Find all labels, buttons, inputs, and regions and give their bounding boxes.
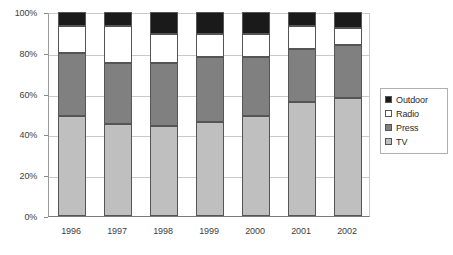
- bar-segment-radio[interactable]: [334, 28, 362, 44]
- bar-segment-tv[interactable]: [150, 126, 178, 216]
- plot-area: [48, 13, 370, 217]
- bar-segment-outdoor[interactable]: [242, 12, 270, 34]
- bar-segment-outdoor[interactable]: [150, 12, 178, 34]
- y-axis: 0%20%40%60%80%100%: [0, 0, 44, 255]
- stacked-bar[interactable]: [196, 12, 224, 216]
- bar-segment-outdoor[interactable]: [58, 12, 86, 26]
- bar-segment-press[interactable]: [104, 63, 132, 124]
- stacked-bar[interactable]: [150, 12, 178, 216]
- legend-swatch-tv-icon: [385, 138, 392, 145]
- bar-segment-press[interactable]: [150, 63, 178, 126]
- bar-segment-radio[interactable]: [196, 34, 224, 56]
- x-tick-label: 2002: [317, 226, 377, 236]
- bar-segment-press[interactable]: [242, 57, 270, 116]
- legend-label: Radio: [396, 109, 419, 119]
- stacked-bar[interactable]: [104, 12, 132, 216]
- legend-item-press[interactable]: Press: [385, 121, 444, 134]
- bar-segment-tv[interactable]: [58, 116, 86, 216]
- bar-segment-press[interactable]: [58, 53, 86, 116]
- y-tick-label: 20%: [20, 171, 37, 181]
- y-tick-label: 80%: [20, 49, 37, 59]
- legend-swatch-outdoor-icon: [385, 96, 392, 103]
- legend-item-outdoor[interactable]: Outdoor: [385, 93, 444, 106]
- y-tick-label: 60%: [20, 90, 37, 100]
- legend-item-tv[interactable]: TV: [385, 135, 444, 148]
- bar-segment-radio[interactable]: [150, 34, 178, 63]
- legend-item-radio[interactable]: Radio: [385, 107, 444, 120]
- bar-segment-radio[interactable]: [58, 26, 86, 53]
- legend-swatch-press-icon: [385, 124, 392, 131]
- bar-segment-outdoor[interactable]: [288, 12, 316, 26]
- legend-swatch-radio-icon: [385, 110, 392, 117]
- bar-segment-outdoor[interactable]: [104, 12, 132, 26]
- chart-legend: OutdoorRadioPressTV: [380, 88, 448, 154]
- bar-segment-radio[interactable]: [104, 26, 132, 63]
- legend-label: Outdoor: [396, 95, 428, 105]
- legend-label: TV: [396, 137, 407, 147]
- bar-segment-tv[interactable]: [334, 98, 362, 216]
- bar-segment-press[interactable]: [196, 57, 224, 122]
- bar-segment-tv[interactable]: [196, 122, 224, 216]
- stacked-bar[interactable]: [58, 12, 86, 216]
- bar-segment-tv[interactable]: [104, 124, 132, 216]
- bar-segment-tv[interactable]: [288, 102, 316, 216]
- chart-container: 0%20%40%60%80%100% 199619971998199920002…: [0, 0, 453, 255]
- stacked-bar[interactable]: [288, 12, 316, 216]
- y-tick-label: 100%: [15, 8, 37, 18]
- bar-segment-outdoor[interactable]: [334, 12, 362, 28]
- bar-segment-radio[interactable]: [242, 34, 270, 56]
- bar-segment-press[interactable]: [288, 49, 316, 102]
- bar-segment-tv[interactable]: [242, 116, 270, 216]
- bar-segment-press[interactable]: [334, 45, 362, 98]
- y-tick-mark: [44, 217, 48, 218]
- bar-segment-outdoor[interactable]: [196, 12, 224, 34]
- stacked-bar[interactable]: [242, 12, 270, 216]
- bar-segment-radio[interactable]: [288, 26, 316, 48]
- y-tick-label: 0%: [24, 212, 37, 222]
- y-tick-label: 40%: [20, 130, 37, 140]
- stacked-bar[interactable]: [334, 12, 362, 216]
- legend-label: Press: [396, 123, 419, 133]
